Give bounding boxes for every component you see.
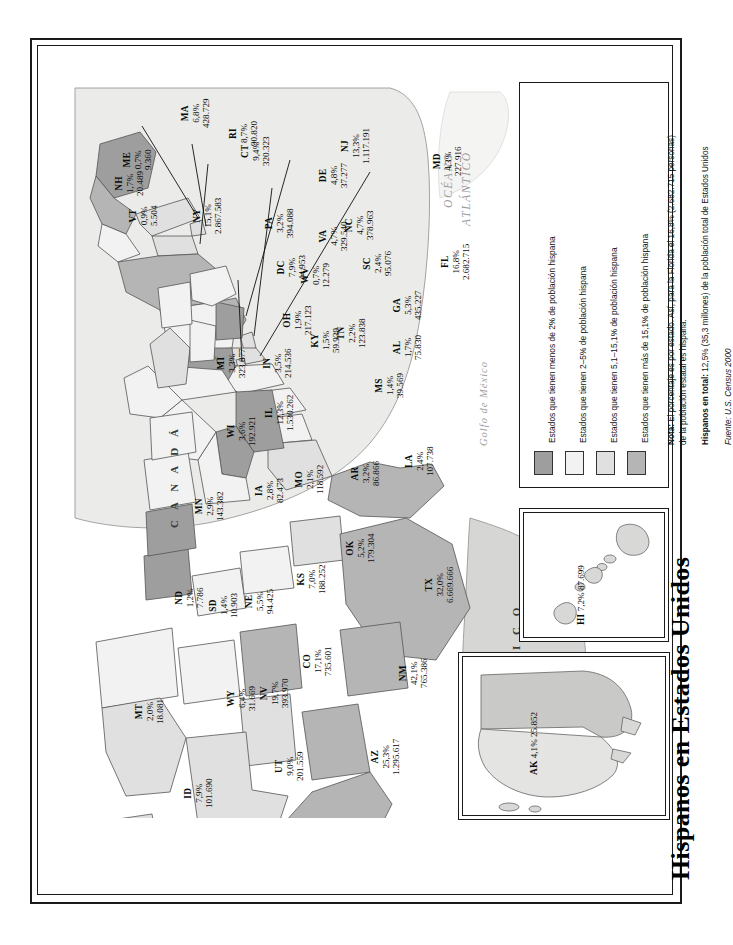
state-ab-AR: AR [350, 467, 360, 481]
state-WI [158, 282, 192, 328]
state-num-IN: 214.536 [283, 348, 293, 378]
state-pc-MO: 2,1% [305, 470, 315, 489]
state-pc-DC: 7,9% [287, 258, 297, 277]
state-label-DE: DE4,8%37.277 [318, 163, 349, 188]
state-num-NV: 393.970 [280, 678, 290, 708]
state-label-WY: WY6,4%31.669 [226, 686, 257, 711]
state-pc-FL: 16,8% [451, 250, 461, 274]
state-pc-VT: 0,9% [139, 206, 149, 225]
alaska-svg [463, 657, 666, 816]
state-ab-IA: IA [254, 485, 264, 496]
state-ab-LA: LA [404, 455, 414, 468]
state-pc-NM: 42,1% [409, 661, 419, 685]
state-label-CO: CO17,1%735.601 [302, 646, 333, 676]
state-ab-NE: NE [244, 595, 254, 608]
state-label-ID: ID7,9%101.690 [183, 778, 214, 808]
state-pc-NE: 5,5% [255, 592, 265, 611]
state-label-MT: MT2,0%18.081 [134, 699, 165, 724]
state-ab-NY: NY [192, 209, 202, 223]
state-ab-SD: SD [208, 599, 218, 611]
state-num-KS: 188.252 [317, 564, 327, 594]
state-ab-MD: MD [432, 153, 442, 169]
state-label-PA: PA3,2%394.088 [264, 208, 295, 238]
state-ab-CO: CO [302, 654, 312, 668]
state-label-MD: MD4,3%227.916 [432, 146, 463, 176]
state-ab-DC: DC [276, 261, 286, 275]
state-label-KS: KS7,0%188.252 [296, 564, 327, 594]
state-num-PA: 394.088 [285, 208, 295, 238]
state-pc-AR: 3,2% [361, 464, 371, 483]
state-label-OK: OK5,2%179.304 [345, 533, 376, 563]
state-label-NV: NV19,7%393.970 [259, 678, 290, 708]
state-label-LA: LA2,4%107.738 [404, 446, 435, 476]
state-label-NE: NE5,5%94.425 [244, 589, 275, 614]
state-ab-WI: WI [226, 425, 236, 438]
state-pc-MS: 1,4% [385, 376, 395, 395]
state-KS [240, 546, 294, 594]
state-num-MT: 18.081 [155, 699, 165, 724]
state-label-VA: VA4,7%329.540 [318, 221, 349, 251]
state-ab-VT: VT [128, 209, 138, 222]
state-pc-CO: 17,1% [313, 649, 323, 673]
state-pc-NV: 19,7% [270, 681, 280, 705]
state-num-TX: 6.669.666 [445, 567, 455, 603]
state-label-MS: MS1,4%39.569 [374, 373, 405, 398]
state-num-TN: 123.838 [357, 318, 367, 348]
state-ab-SC: SC [362, 257, 372, 269]
state-num-ND: 7.786 [195, 588, 205, 608]
state-ab-ME: ME [122, 152, 132, 168]
state-label-IL: IL12,3%1.530.262 [264, 395, 295, 431]
legend-swatch-3 [596, 451, 615, 475]
state-num-DC: 44.953 [297, 255, 307, 280]
state-pc-GA: 5,3% [403, 296, 413, 315]
state-ab-AZ: AZ [370, 750, 380, 763]
legend-label-1: Estados que tienen menos de 2% de poblac… [547, 236, 557, 443]
legend-note-text: El porcentaje es por estado. Así, para l… [667, 135, 676, 424]
state-num-NE: 94.425 [265, 589, 275, 614]
legend-total-label: Hispanos en total: [701, 374, 710, 445]
state-num-DE: 37.277 [339, 163, 349, 188]
state-ab-IL: IL [264, 408, 274, 418]
state-num-ME: 9.360 [143, 150, 153, 170]
legend-note-line2: de la población estatal es hispana. [678, 319, 690, 445]
state-pc-KS: 7,0% [307, 570, 317, 589]
state-ab-TN: TN [336, 327, 346, 340]
state-ab-MI: MI [216, 357, 226, 370]
state-pc-OH: 1,9% [293, 311, 303, 330]
state-pc-MN: 2,9% [205, 497, 215, 516]
state-ab-PA: PA [264, 217, 274, 229]
legend-swatch-4 [627, 451, 646, 475]
state-pc-DE: 4,8% [329, 166, 339, 185]
state-ab-MT: MT [134, 704, 144, 720]
state-OK [290, 516, 344, 566]
legend-note-label: Nota: [667, 424, 676, 445]
state-num-CO: 735.601 [323, 646, 333, 676]
state-num-NH: 20.489 [135, 171, 145, 196]
state-num-NJ: 1.117.191 [361, 128, 371, 164]
state-num-FL: 2.682.715 [461, 244, 471, 280]
state-CT [152, 236, 198, 256]
state-num-CT: 320.323 [261, 136, 271, 166]
state-pc-MD: 4,3% [443, 152, 453, 171]
state-num-SD: 10.903 [229, 593, 239, 618]
state-label-GA: GA5,3%435.227 [392, 290, 423, 320]
state-num-VT: 5.504 [149, 206, 159, 226]
state-ab-CT: CT [240, 145, 250, 158]
state-ab-VA: VA [318, 230, 328, 243]
state-pc-ID: 7,9% [194, 784, 204, 803]
state-label-OH: OH1,9%217.123 [282, 305, 313, 335]
state-num-RI: 90.820 [249, 121, 259, 146]
state-pc-WI: 3,6% [237, 422, 247, 441]
state-pc-NH: 1,7% [125, 174, 135, 193]
state-num-WY: 31.669 [247, 686, 257, 711]
page-title: Hispanos en Estados Unidos [666, 557, 696, 880]
state-pc-MT: 2,0% [145, 702, 155, 721]
state-label-SD: SD1,4%10.903 [208, 593, 239, 618]
legend-swatch-1 [534, 451, 553, 475]
state-num-AR: 86.866 [371, 461, 381, 486]
state-num-MS: 39.569 [395, 373, 405, 398]
state-pc-WY: 6,4% [237, 689, 247, 708]
state-label-AR: AR3,2%86.866 [350, 461, 381, 486]
state-ab-OH: OH [282, 313, 292, 328]
state-pc-IN: 3,5% [273, 354, 283, 373]
